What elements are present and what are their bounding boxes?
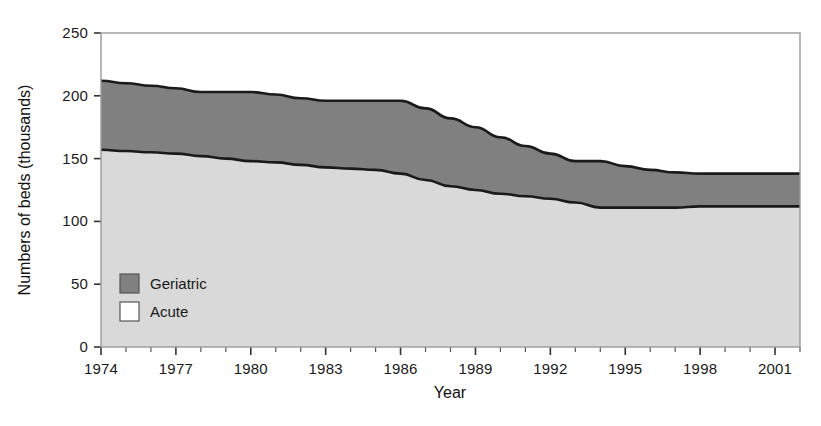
y-tick-label: 150: [62, 150, 88, 167]
chart-figure: 050100150200250 197419771980198319861989…: [0, 0, 821, 426]
y-axis-title: Numbers of beds (thousands): [16, 85, 33, 296]
legend-label-geriatric: Geriatric: [150, 275, 207, 292]
y-tick-label: 250: [62, 24, 88, 41]
area-chart: 050100150200250 197419771980198319861989…: [0, 0, 821, 426]
x-tick-label: 1989: [458, 360, 492, 377]
x-tick-label: 1998: [683, 360, 717, 377]
x-tick-label: 1974: [84, 360, 118, 377]
x-tick-label: 1983: [309, 360, 343, 377]
x-tick-label: 1980: [234, 360, 268, 377]
x-tick-label: 1995: [608, 360, 642, 377]
legend-swatch-acute: [120, 302, 139, 321]
y-tick-label: 200: [62, 87, 88, 104]
x-axis-title: Year: [434, 384, 467, 401]
x-tick-label: 1977: [159, 360, 193, 377]
y-tick-label: 100: [62, 212, 88, 229]
y-tick-label: 50: [71, 275, 88, 292]
legend-swatch-geriatric: [120, 274, 139, 293]
y-tick-label: 0: [79, 338, 88, 355]
x-tick-label: 2001: [758, 360, 792, 377]
x-tick-label: 1986: [383, 360, 417, 377]
x-tick-label: 1992: [533, 360, 567, 377]
legend-label-acute: Acute: [150, 303, 188, 320]
